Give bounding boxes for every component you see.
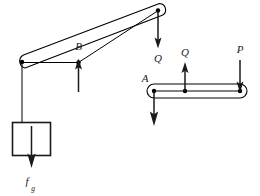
label-point-b: B — [75, 40, 82, 52]
upper-arm-member — [20, 4, 166, 68]
force-arrow-fg — [27, 126, 35, 168]
upper-arm-outline — [20, 4, 166, 68]
force-arrow-p — [237, 60, 244, 93]
label-force-q-down: Q — [154, 52, 162, 64]
force-diagram-canvas: B Q Q P A — [0, 0, 260, 196]
label-point-a: A — [141, 72, 149, 84]
force-arrow-q-up — [182, 62, 189, 91]
label-force-fg-subscript: g — [31, 184, 35, 193]
pivot-left-upper-arm — [20, 60, 24, 64]
force-diagram-svg: B Q Q P A — [0, 0, 260, 196]
label-force-fg: f — [25, 175, 30, 187]
label-force-p: P — [236, 43, 244, 55]
force-arrow-b — [75, 59, 82, 93]
force-arrow-a-down — [150, 91, 158, 126]
label-force-q-up: Q — [181, 46, 189, 58]
